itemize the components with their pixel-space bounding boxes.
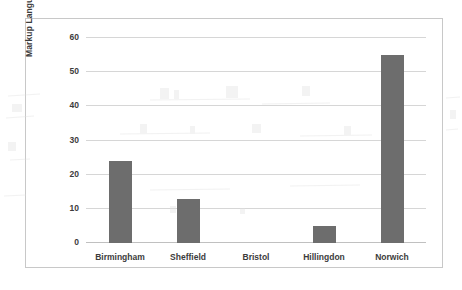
gridline-20: 20 xyxy=(86,174,426,175)
gridline-50: 50 xyxy=(86,71,426,72)
plot-area: 0102030405060BirminghamSheffieldBristolH… xyxy=(86,38,426,243)
bar-birmingham xyxy=(109,161,132,243)
gridline-40: 40 xyxy=(86,105,426,106)
y-axis-tick-label: 10 xyxy=(70,203,79,213)
gridline-10: 10 xyxy=(86,208,426,209)
x-axis-label-norwich: Norwich xyxy=(375,252,409,262)
gridline-60: 60 xyxy=(86,37,426,38)
gridline-0: 0 xyxy=(86,242,426,243)
y-axis-tick-label: 30 xyxy=(70,135,79,145)
y-axis-title: Markup Language Issues xyxy=(24,0,38,75)
x-axis-label-birmingham: Birmingham xyxy=(95,252,145,262)
bar-sheffield xyxy=(177,199,200,243)
gridline-30: 30 xyxy=(86,140,426,141)
x-axis-label-sheffield: Sheffield xyxy=(170,252,206,262)
y-axis-tick-label: 20 xyxy=(70,169,79,179)
y-axis-tick-label: 40 xyxy=(70,100,79,110)
y-axis-tick-label: 50 xyxy=(70,66,79,76)
bar-norwich xyxy=(381,55,404,243)
chart-figure: Markup Language Issues 0102030405060Birm… xyxy=(25,18,443,268)
y-axis-tick-label: 60 xyxy=(70,32,79,42)
y-axis-tick-label: 0 xyxy=(74,237,79,247)
x-axis-label-hillingdon: Hillingdon xyxy=(303,252,345,262)
bar-hillingdon xyxy=(313,226,336,243)
x-axis-label-bristol: Bristol xyxy=(243,252,270,262)
